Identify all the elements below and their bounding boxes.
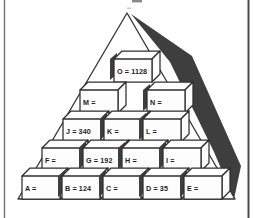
cube-label-F: F = <box>45 156 56 165</box>
puzzle-figure: O = 1128M =N =J = 340K =L =F =G = 192H =… <box>0 0 253 218</box>
cube-label-E: E = <box>187 184 198 193</box>
cropped-text-remnant <box>132 0 142 2</box>
cube-label-B: B = 124 <box>65 184 91 193</box>
cube-label-N: N = <box>150 98 162 107</box>
cube-label-M: M = <box>83 98 95 107</box>
cube-label-H: H = <box>125 156 137 165</box>
cube-label-O: O = 1128 <box>117 67 147 76</box>
cube-label-K: K = <box>107 127 119 136</box>
cube-N: N = <box>143 82 193 113</box>
cube-I: I = <box>159 140 209 171</box>
cube-label-C: C = <box>106 184 118 193</box>
cube-L: L = <box>139 111 189 142</box>
cube-label-A: A = <box>25 184 36 193</box>
cube-E: E = <box>180 168 230 199</box>
pyramid-diagram: O = 1128M =N =J = 340K =L =F =G = 192H =… <box>0 0 253 218</box>
cube-label-L: L = <box>146 127 157 136</box>
cropped-text-remnant <box>127 8 131 9</box>
cube-M: M = <box>80 82 126 113</box>
cube-label-J: J = 340 <box>66 127 91 136</box>
cube-label-I: I = <box>166 156 175 165</box>
cube-O: O = 1128 <box>110 51 160 82</box>
cube-label-D: D = 35 <box>146 184 168 193</box>
cube-label-G: G = 192 <box>86 156 112 165</box>
